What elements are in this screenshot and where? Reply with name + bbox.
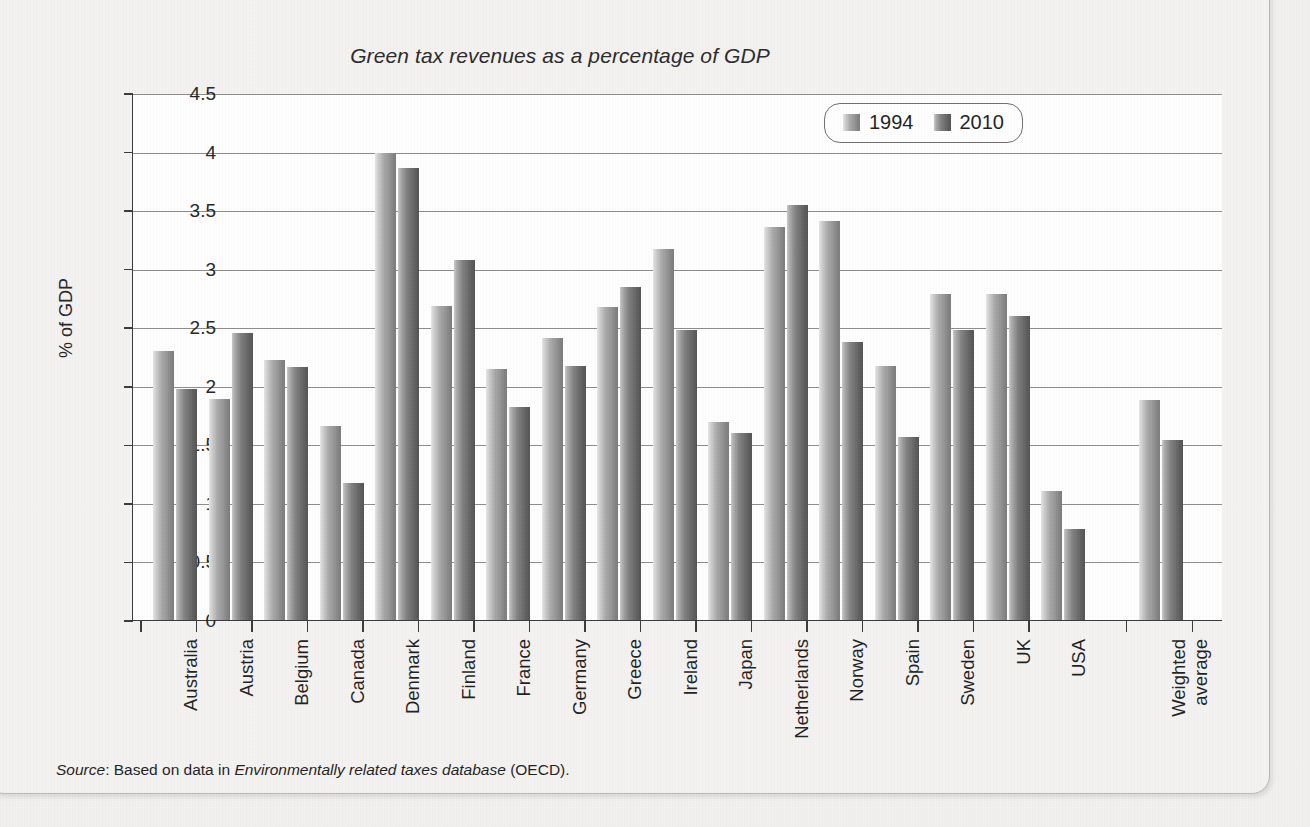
x-axis-tick bbox=[418, 621, 420, 632]
bar-2010 bbox=[898, 437, 919, 620]
bar-2010 bbox=[509, 407, 530, 620]
bar-1994 bbox=[486, 369, 507, 620]
bar-2010 bbox=[620, 287, 641, 620]
figure-root: Green tax revenues as a percentage of GD… bbox=[0, 0, 1310, 827]
bar-2010 bbox=[343, 483, 364, 620]
bar-group bbox=[653, 94, 697, 620]
bar-group bbox=[819, 94, 863, 620]
y-axis-title: % of GDP bbox=[56, 278, 77, 358]
bar-group bbox=[431, 94, 475, 620]
x-axis-label-usa: USA bbox=[1068, 639, 1090, 677]
bar-1994 bbox=[153, 351, 174, 620]
x-axis-label-france: France bbox=[513, 639, 535, 697]
bar-group bbox=[930, 94, 974, 620]
x-axis-tick bbox=[307, 621, 309, 632]
plot-area bbox=[132, 94, 1222, 621]
legend-label-1994: 1994 bbox=[869, 111, 914, 134]
bar-group bbox=[597, 94, 641, 620]
source-separator: : bbox=[105, 761, 114, 778]
y-axis-tick bbox=[124, 93, 133, 95]
legend-entry-1994: 1994 bbox=[843, 111, 914, 134]
y-axis-tick bbox=[124, 562, 133, 564]
source-lead: Based on data in bbox=[114, 761, 235, 778]
bar-group bbox=[209, 94, 253, 620]
x-axis-label-denmark: Denmark bbox=[402, 639, 424, 714]
source-prefix: Source bbox=[56, 761, 105, 778]
bar-1994 bbox=[1139, 400, 1160, 620]
bar-1994 bbox=[542, 338, 563, 620]
x-axis-label-australia: Australia bbox=[180, 639, 202, 711]
x-axis-label-japan: Japan bbox=[735, 639, 757, 689]
bar-1994 bbox=[653, 249, 674, 620]
x-axis-label-greece: Greece bbox=[624, 639, 646, 700]
bar-2010 bbox=[787, 205, 808, 620]
y-axis-tick bbox=[124, 327, 133, 329]
x-axis-tick bbox=[196, 621, 198, 632]
bar-2010 bbox=[176, 389, 197, 620]
bar-1994 bbox=[875, 366, 896, 620]
x-axis-label-netherlands: Netherlands bbox=[791, 639, 813, 739]
y-axis-tick bbox=[124, 269, 133, 271]
x-axis-label-uk: UK bbox=[1013, 639, 1035, 665]
bar-group bbox=[875, 94, 919, 620]
y-axis-tick bbox=[124, 445, 133, 447]
bar-group bbox=[153, 94, 197, 620]
x-axis-tick bbox=[529, 621, 531, 632]
bars-layer bbox=[133, 94, 1222, 620]
legend-label-2010: 2010 bbox=[960, 111, 1005, 134]
bar-group bbox=[986, 94, 1030, 620]
y-axis-tick bbox=[124, 503, 133, 505]
bar-2010 bbox=[565, 366, 586, 620]
source-note: Source: Based on data in Environmentally… bbox=[56, 761, 570, 779]
legend-entry-2010: 2010 bbox=[934, 111, 1005, 134]
source-tail: (OECD). bbox=[506, 761, 570, 778]
bar-group bbox=[320, 94, 364, 620]
bar-1994 bbox=[431, 306, 452, 620]
x-axis-label-finland: Finland bbox=[458, 639, 480, 700]
bar-2010 bbox=[676, 330, 697, 620]
x-axis-tick bbox=[751, 621, 753, 632]
bar-1994 bbox=[209, 399, 230, 620]
x-axis-label-germany: Germany bbox=[569, 639, 591, 715]
x-axis-tick bbox=[806, 621, 808, 632]
x-axis-tick bbox=[1192, 621, 1194, 632]
x-axis-tick bbox=[862, 621, 864, 632]
bar-group bbox=[542, 94, 586, 620]
bar-1994 bbox=[764, 227, 785, 620]
x-axis-tick bbox=[1126, 621, 1128, 632]
y-axis-tick bbox=[124, 620, 133, 622]
bar-1994 bbox=[708, 422, 729, 620]
bar-2010 bbox=[454, 260, 475, 620]
x-axis-tick bbox=[140, 621, 142, 632]
bar-group bbox=[375, 94, 419, 620]
x-axis-tick bbox=[973, 621, 975, 632]
bar-2010 bbox=[1009, 316, 1030, 620]
x-axis-tick bbox=[917, 621, 919, 632]
x-axis-tick bbox=[584, 621, 586, 632]
x-axis-label-spain: Spain bbox=[902, 639, 924, 686]
x-axis-label-line2: average bbox=[1189, 639, 1211, 717]
bar-1994 bbox=[986, 294, 1007, 620]
bar-2010 bbox=[1064, 529, 1085, 620]
bar-1994 bbox=[375, 153, 396, 620]
bar-2010 bbox=[232, 333, 253, 620]
x-axis-tick bbox=[640, 621, 642, 632]
bar-1994 bbox=[264, 360, 285, 620]
x-axis-label-norway: Norway bbox=[846, 639, 868, 702]
bar-group bbox=[764, 94, 808, 620]
x-axis-label-canada: Canada bbox=[347, 639, 369, 704]
x-axis-label-belgium: Belgium bbox=[291, 639, 313, 706]
bar-group bbox=[486, 94, 530, 620]
legend-swatch-2010-icon bbox=[934, 114, 951, 131]
y-axis-tick bbox=[124, 152, 133, 154]
x-axis-tick bbox=[251, 621, 253, 632]
bar-group bbox=[708, 94, 752, 620]
bar-group bbox=[1041, 94, 1085, 620]
x-axis-tick bbox=[362, 621, 364, 632]
x-axis-label-sweden: Sweden bbox=[957, 639, 979, 706]
bar-2010 bbox=[287, 367, 308, 620]
bar-1994 bbox=[597, 307, 618, 620]
bar-2010 bbox=[842, 342, 863, 620]
bar-2010 bbox=[398, 168, 419, 620]
chart-title: Green tax revenues as a percentage of GD… bbox=[0, 44, 1120, 68]
